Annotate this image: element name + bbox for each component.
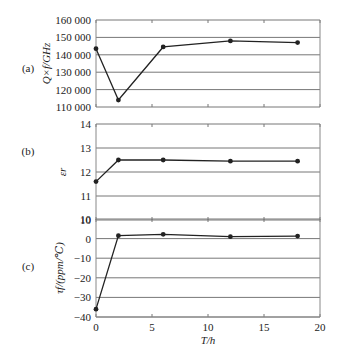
x-tick-label: 20 xyxy=(315,321,327,333)
y-tick-label: −20 xyxy=(74,272,92,284)
y-axis-title: Q×f/GHz xyxy=(40,42,52,84)
stacked-line-chart: 110 000120 000130 000140 000150 000160 0… xyxy=(0,0,338,356)
data-point xyxy=(295,234,300,239)
x-tick-label: 15 xyxy=(259,321,271,333)
panel-c: −40−30−20−10010τf/(ppm/℃)(c) xyxy=(22,213,320,323)
x-axis-title: T/h xyxy=(201,334,216,346)
data-line xyxy=(96,160,298,182)
data-point xyxy=(94,179,99,184)
data-point xyxy=(161,232,166,237)
data-line xyxy=(96,234,298,309)
data-point xyxy=(295,159,300,164)
data-point xyxy=(161,158,166,163)
data-point xyxy=(94,46,99,51)
y-tick-label: 11 xyxy=(80,190,91,202)
panel-label: (b) xyxy=(22,145,35,158)
y-tick-label: 10 xyxy=(80,213,92,225)
panel-b: 1011121314εr(b) xyxy=(22,118,320,226)
data-point xyxy=(228,38,233,43)
x-tick-label: 0 xyxy=(93,321,99,333)
data-point xyxy=(116,158,121,163)
data-line xyxy=(96,41,298,100)
x-tick-label: 5 xyxy=(149,321,155,333)
data-point xyxy=(94,307,99,312)
data-point xyxy=(116,233,121,238)
y-tick-label: 14 xyxy=(80,118,92,130)
panel-label: (c) xyxy=(22,260,35,273)
y-tick-label: 0 xyxy=(86,233,92,245)
panel-label: (a) xyxy=(22,62,35,75)
y-tick-label: 12 xyxy=(80,166,91,178)
y-tick-label: −40 xyxy=(74,311,92,323)
y-tick-label: 120 000 xyxy=(55,84,91,96)
chart-canvas: 110 000120 000130 000140 000150 000160 0… xyxy=(0,0,338,356)
y-axis-title: εr xyxy=(56,167,68,176)
data-point xyxy=(295,40,300,45)
data-point xyxy=(228,234,233,239)
y-tick-label: 110 000 xyxy=(56,101,92,113)
data-point xyxy=(161,45,166,50)
data-point xyxy=(116,98,121,103)
x-tick-label: 10 xyxy=(203,321,215,333)
data-point xyxy=(228,159,233,164)
panel-a: 110 000120 000130 000140 000150 000160 0… xyxy=(22,14,320,113)
y-tick-label: −10 xyxy=(74,252,92,264)
y-tick-label: −30 xyxy=(74,291,92,303)
y-tick-label: 140 000 xyxy=(55,49,91,61)
y-tick-label: 13 xyxy=(80,142,92,154)
y-axis-title: τf/(ppm/℃) xyxy=(53,242,66,294)
y-tick-label: 150 000 xyxy=(55,31,91,43)
y-tick-label: 160 000 xyxy=(55,14,91,26)
y-tick-label: 130 000 xyxy=(55,66,91,78)
